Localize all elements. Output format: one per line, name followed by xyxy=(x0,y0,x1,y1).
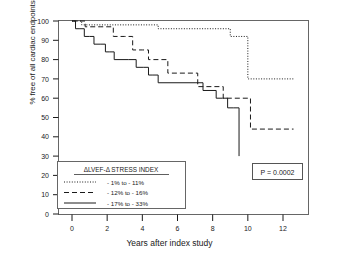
plot-area: 0102030405060708090100 024681012 ΔLVEF-Δ… xyxy=(0,0,339,260)
x-tick-label-8: 8 xyxy=(211,225,215,232)
x-tick-label-2: 2 xyxy=(105,225,109,232)
y-tick-label-40: 40 xyxy=(41,133,49,140)
series-line-2 xyxy=(72,21,239,156)
y-tick-label-20: 20 xyxy=(41,172,49,179)
x-tick-label-4: 4 xyxy=(140,225,144,232)
y-tick-label-60: 60 xyxy=(41,95,49,102)
y-tick-label-10: 10 xyxy=(41,191,49,198)
y-tick-label-80: 80 xyxy=(41,56,49,63)
x-tick-label-12: 12 xyxy=(279,225,287,232)
legend-item-label-1: - 12% to - 16% xyxy=(107,189,148,196)
y-axis-ticks: 0102030405060708090100 xyxy=(37,18,58,218)
legend-item-label-0: - 1% to - 11% xyxy=(107,179,145,186)
x-axis-ticks: 024681012 xyxy=(70,215,287,233)
x-tick-label-0: 0 xyxy=(70,225,74,232)
legend-title: ΔLVEF-Δ STRESS INDEX xyxy=(84,166,159,173)
p-value-annotation: P = 0.0002 xyxy=(253,164,303,180)
figure-kaplan-meier-cardiac-endpoints: % free of all cardiac endpoints Years af… xyxy=(0,0,339,260)
legend-item-label-2: - 17% to - 33% xyxy=(107,200,148,207)
y-tick-label-70: 70 xyxy=(41,76,49,83)
y-tick-label-100: 100 xyxy=(37,18,49,25)
p-value-text: P = 0.0002 xyxy=(261,169,295,176)
series-curves xyxy=(72,21,294,156)
y-tick-label-50: 50 xyxy=(41,114,49,121)
y-tick-label-30: 30 xyxy=(41,153,49,160)
y-tick-label-90: 90 xyxy=(41,37,49,44)
x-tick-label-6: 6 xyxy=(176,225,180,232)
legend: ΔLVEF-Δ STRESS INDEX - 1% to - 11% - 12%… xyxy=(58,162,186,209)
series-line-1 xyxy=(72,21,294,129)
y-tick-label-0: 0 xyxy=(45,211,49,218)
x-tick-label-10: 10 xyxy=(244,225,252,232)
